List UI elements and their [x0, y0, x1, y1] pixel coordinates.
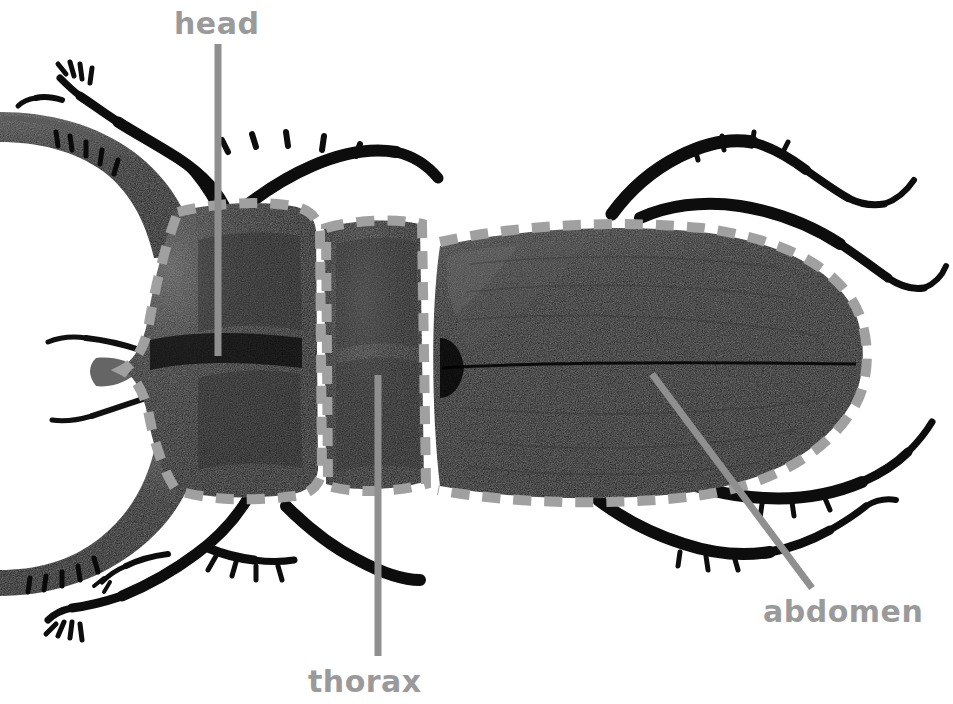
label-thorax: thorax — [308, 664, 422, 699]
label-head: head — [174, 6, 259, 41]
thorax-segment — [324, 221, 424, 490]
label-abdomen: abdomen — [763, 594, 923, 629]
figure-canvas: head thorax abdomen — [0, 0, 953, 704]
